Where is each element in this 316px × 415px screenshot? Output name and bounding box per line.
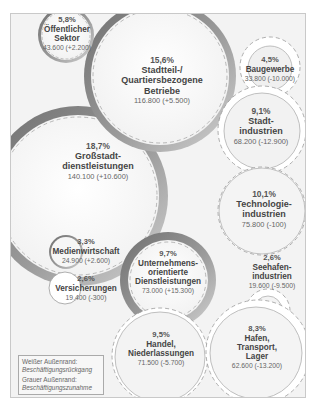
label-baugewerbe: 4,5% Baugewerbe 33.800 (-10.000)	[245, 56, 295, 82]
label-stadtteil: 15,6% Stadtteil-/ Quartiersbezogene Betr…	[121, 56, 203, 105]
name-text: orientierte	[135, 267, 201, 276]
name-text: industrien	[234, 126, 289, 136]
share-text: 9,5%	[128, 331, 194, 340]
share-text: 9,7%	[135, 250, 201, 259]
label-seehafen: 2,6% Seehafen- industrien 19.600 (-9.500…	[249, 254, 295, 289]
share-text: 4,5%	[245, 56, 295, 65]
name-text: Öffentlicher	[43, 25, 91, 34]
share-text: 5,8%	[43, 16, 91, 25]
label-hafen: 8,3% Hafen, Transport, Lager 62.600 (-13…	[232, 325, 282, 370]
value-text: 24.900 (+2.600)	[53, 257, 120, 265]
name-text: Stadtteil-/	[121, 65, 203, 75]
label-versicherungen: 2,6% Versicherungen 19.400 (-300)	[55, 275, 116, 301]
value-text: 116.800 (+5.500)	[121, 96, 203, 104]
value-text: 33.800 (-10.000)	[245, 75, 295, 83]
share-text: 10,1%	[236, 190, 291, 199]
legend-gray-desc: Beschäftigungszunahme	[22, 384, 100, 392]
name-text: Handel,	[128, 340, 194, 349]
value-text: 19.400 (-300)	[55, 294, 116, 302]
share-text: 2,6%	[249, 254, 295, 263]
label-stadtindustrien: 9,1% Stadt- industrien 68.200 (-12.900)	[234, 107, 289, 146]
value-text: 140.100 (+10.600)	[62, 172, 134, 180]
legend-gray-title: Grauer Außenrand:	[22, 376, 100, 384]
share-text: 9,1%	[234, 107, 289, 116]
name-text: Baugewerbe	[245, 64, 295, 73]
name-text: Stadt-	[234, 116, 289, 126]
value-text: 73.000 (+15.300)	[135, 287, 201, 295]
share-text: 3,3%	[53, 238, 120, 247]
value-text: 71.500 (-5.700)	[128, 359, 194, 367]
legend-white-desc: Beschäftigungsrückgang	[22, 366, 100, 374]
name-text: Medienwirtschaft	[53, 246, 120, 255]
share-text: 8,3%	[232, 325, 282, 334]
label-handel: 9,5% Handel, Niederlassungen 71.500 (-5.…	[128, 331, 194, 366]
label-oeffentlich: 5,8% Öffentlicher Sektor 43.600 (+2.200)	[43, 16, 91, 51]
value-text: 62.600 (-13.200)	[232, 362, 282, 370]
name-text: Quartiersbezogene	[121, 75, 203, 85]
value-text: 43.600 (+2.200)	[43, 44, 91, 52]
name-text: Unternehmens-	[135, 258, 201, 267]
share-text: 2,6%	[55, 275, 116, 284]
value-text: 68.200 (-12.900)	[234, 137, 289, 145]
legend-white-title: Weißer Außenrand:	[22, 358, 100, 366]
name-text: Hafen,	[232, 333, 282, 342]
label-technologie: 10,1% Technologie- industrien 75.800 (-1…	[236, 190, 291, 229]
share-text: 15,6%	[121, 56, 203, 65]
name-text: Betriebe	[121, 85, 203, 95]
value-text: 19.600 (-9.500)	[249, 282, 295, 290]
label-medien: 3,3% Medienwirtschaft 24.900 (+2.600)	[53, 238, 120, 264]
name-text: industrien	[236, 209, 291, 219]
name-text: Großstadt-	[62, 151, 134, 161]
name-text: Lager	[232, 352, 282, 361]
name-text: Transport,	[232, 342, 282, 351]
legend-box: Weißer Außenrand: Beschäftigungsrückgang…	[18, 355, 104, 395]
name-text: industrien	[249, 272, 295, 281]
label-grossstadt: 18,7% Großstadt- dienstleistungen 140.10…	[62, 142, 134, 181]
label-unternehmens: 9,7% Unternehmens- orientierte Dienstlei…	[135, 250, 201, 295]
value-text: 75.800 (-100)	[236, 220, 291, 228]
name-text: Niederlassungen	[128, 349, 194, 358]
share-text: 18,7%	[62, 142, 134, 151]
name-text: Seehafen-	[249, 263, 295, 272]
name-text: Versicherungen	[55, 283, 116, 292]
name-text: Technologie-	[236, 199, 291, 209]
name-text: Sektor	[43, 34, 91, 43]
name-text: Dienstleistungen	[135, 277, 201, 286]
name-text: dienstleistungen	[62, 161, 134, 171]
